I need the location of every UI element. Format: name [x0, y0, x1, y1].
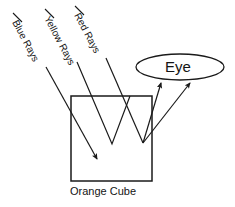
optics-diagram-svg	[0, 0, 235, 207]
yellow-ray-line	[77, 62, 130, 144]
label-orange-cube: Orange Cube	[70, 185, 136, 197]
orange-cube-shape	[71, 96, 152, 181]
label-eye: Eye	[165, 58, 191, 75]
diagram-canvas: Blue Rays Yellow Rays Red Rays Eye Orang…	[0, 0, 235, 207]
red-ray-to-eye-2	[143, 83, 190, 143]
